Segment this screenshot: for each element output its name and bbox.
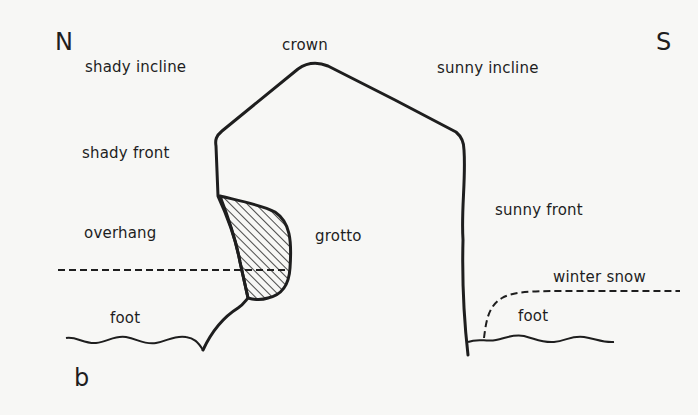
ground-line-left: [66, 337, 203, 350]
ground-line-right: [468, 335, 614, 342]
crown-label: crown: [282, 38, 328, 53]
foot-left-label: foot: [110, 311, 140, 326]
shady-front-label: shady front: [82, 146, 170, 161]
south-label: S: [656, 30, 671, 54]
north-label: N: [55, 30, 73, 54]
overhang-hatched-area: [220, 196, 291, 300]
sunny-front-label: sunny front: [495, 203, 583, 218]
rock-diagram: N S crown shady incline sunny incline sh…: [0, 0, 698, 415]
panel-letter: b: [74, 366, 89, 390]
winter-snow-label: winter snow: [553, 270, 646, 285]
sunny-incline-label: sunny incline: [437, 61, 539, 76]
overhang-label: overhang: [84, 226, 157, 241]
shady-incline-label: shady incline: [85, 60, 186, 75]
winter-snow-dashed-line: [484, 291, 680, 338]
grotto-label: grotto: [315, 229, 362, 244]
foot-right-label: foot: [518, 309, 548, 324]
